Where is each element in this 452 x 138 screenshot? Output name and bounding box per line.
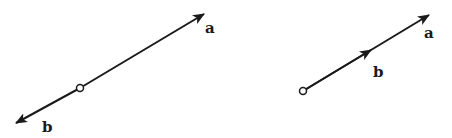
- origin-point: [77, 85, 84, 92]
- vector-diagram: a b a b: [0, 0, 452, 138]
- origin-point: [300, 88, 307, 95]
- vector-a-label: a: [205, 19, 215, 37]
- right-diagram: a b: [300, 15, 435, 95]
- vector-b-label: b: [42, 118, 53, 136]
- vector-a-arrow: [80, 14, 204, 88]
- vector-b-label: b: [373, 63, 384, 81]
- left-diagram: a b: [16, 14, 215, 136]
- vector-a-label: a: [424, 24, 434, 42]
- vector-b-arrow: [303, 50, 371, 91]
